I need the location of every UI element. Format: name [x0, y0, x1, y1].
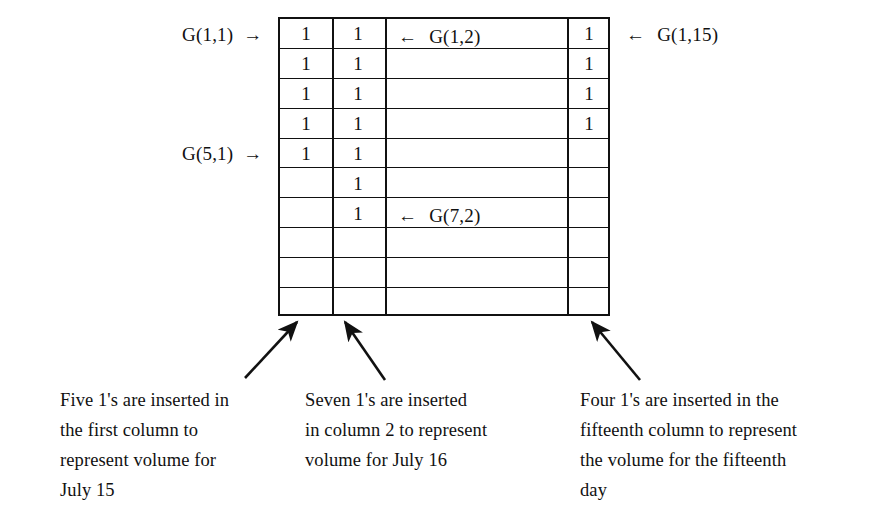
arrow-left-icon: ←	[626, 24, 645, 46]
cell-c15-r3: 1	[584, 84, 594, 103]
arrow-right-icon: →	[243, 24, 262, 45]
caption-column-15: Four 1's are inserted in the fifteenth c…	[580, 385, 870, 505]
label-g-1-2: ←G(1,2)	[398, 26, 481, 48]
table-row	[280, 169, 608, 199]
label-g-1-1: G(1,1)→	[182, 24, 263, 46]
cell-c1-r2: 1	[301, 54, 311, 73]
arrow-right-icon: →	[243, 143, 262, 164]
cell-c15-r4: 1	[584, 114, 594, 133]
grid-diagram-figure: 1 1 1 1 1 1 1 1 1 1 1 1 1 1 1 1 ←G(1,2) …	[0, 0, 895, 527]
table-row	[280, 228, 608, 258]
cell-c1-r4: 1	[301, 114, 311, 133]
table-row	[280, 288, 608, 318]
label-g-1-15: ←G(1,15)	[626, 24, 718, 46]
cell-c2-r2: 1	[353, 54, 363, 73]
column-divider-2	[385, 19, 387, 314]
cell-c1-r5: 1	[301, 144, 311, 163]
cell-c2-r6: 1	[353, 174, 363, 193]
cell-c15-r1: 1	[584, 24, 594, 43]
table-row	[280, 109, 608, 139]
caption-column-1: Five 1's are inserted in the first colum…	[60, 385, 290, 505]
cell-c15-r2: 1	[584, 54, 594, 73]
label-g-1-2-text: G(1,2)	[429, 26, 480, 47]
grid-table: 1 1 1 1 1 1 1 1 1 1 1 1 1 1 1 1 ←G(1,2) …	[278, 17, 610, 316]
label-g-5-1-text: G(5,1)	[182, 143, 233, 164]
label-g-7-2-text: G(7,2)	[429, 205, 480, 226]
label-g-5-1: G(5,1)→	[182, 143, 263, 165]
table-row	[280, 139, 608, 169]
cell-c1-r3: 1	[301, 84, 311, 103]
caption-column-2: Seven 1's are inserted in column 2 to re…	[305, 385, 555, 475]
cell-c2-r4: 1	[353, 114, 363, 133]
table-row	[280, 79, 608, 109]
arrow-to-column-2	[345, 322, 385, 380]
arrow-to-column-1	[245, 322, 297, 378]
arrow-left-icon: ←	[398, 205, 417, 227]
arrow-to-column-15	[592, 322, 640, 380]
table-row	[280, 49, 608, 79]
cell-c1-r1: 1	[301, 24, 311, 43]
column-divider-3	[567, 19, 569, 314]
label-g-1-1-text: G(1,1)	[182, 24, 233, 45]
cell-c2-r3: 1	[353, 84, 363, 103]
column-divider-1	[332, 19, 334, 314]
label-g-7-2: ←G(7,2)	[398, 205, 481, 227]
arrow-left-icon: ←	[398, 26, 417, 48]
cell-c2-r1: 1	[353, 24, 363, 43]
cell-c2-r5: 1	[353, 144, 363, 163]
cell-c2-r7: 1	[353, 204, 363, 223]
table-row	[280, 258, 608, 288]
label-g-1-15-text: G(1,15)	[657, 24, 718, 45]
